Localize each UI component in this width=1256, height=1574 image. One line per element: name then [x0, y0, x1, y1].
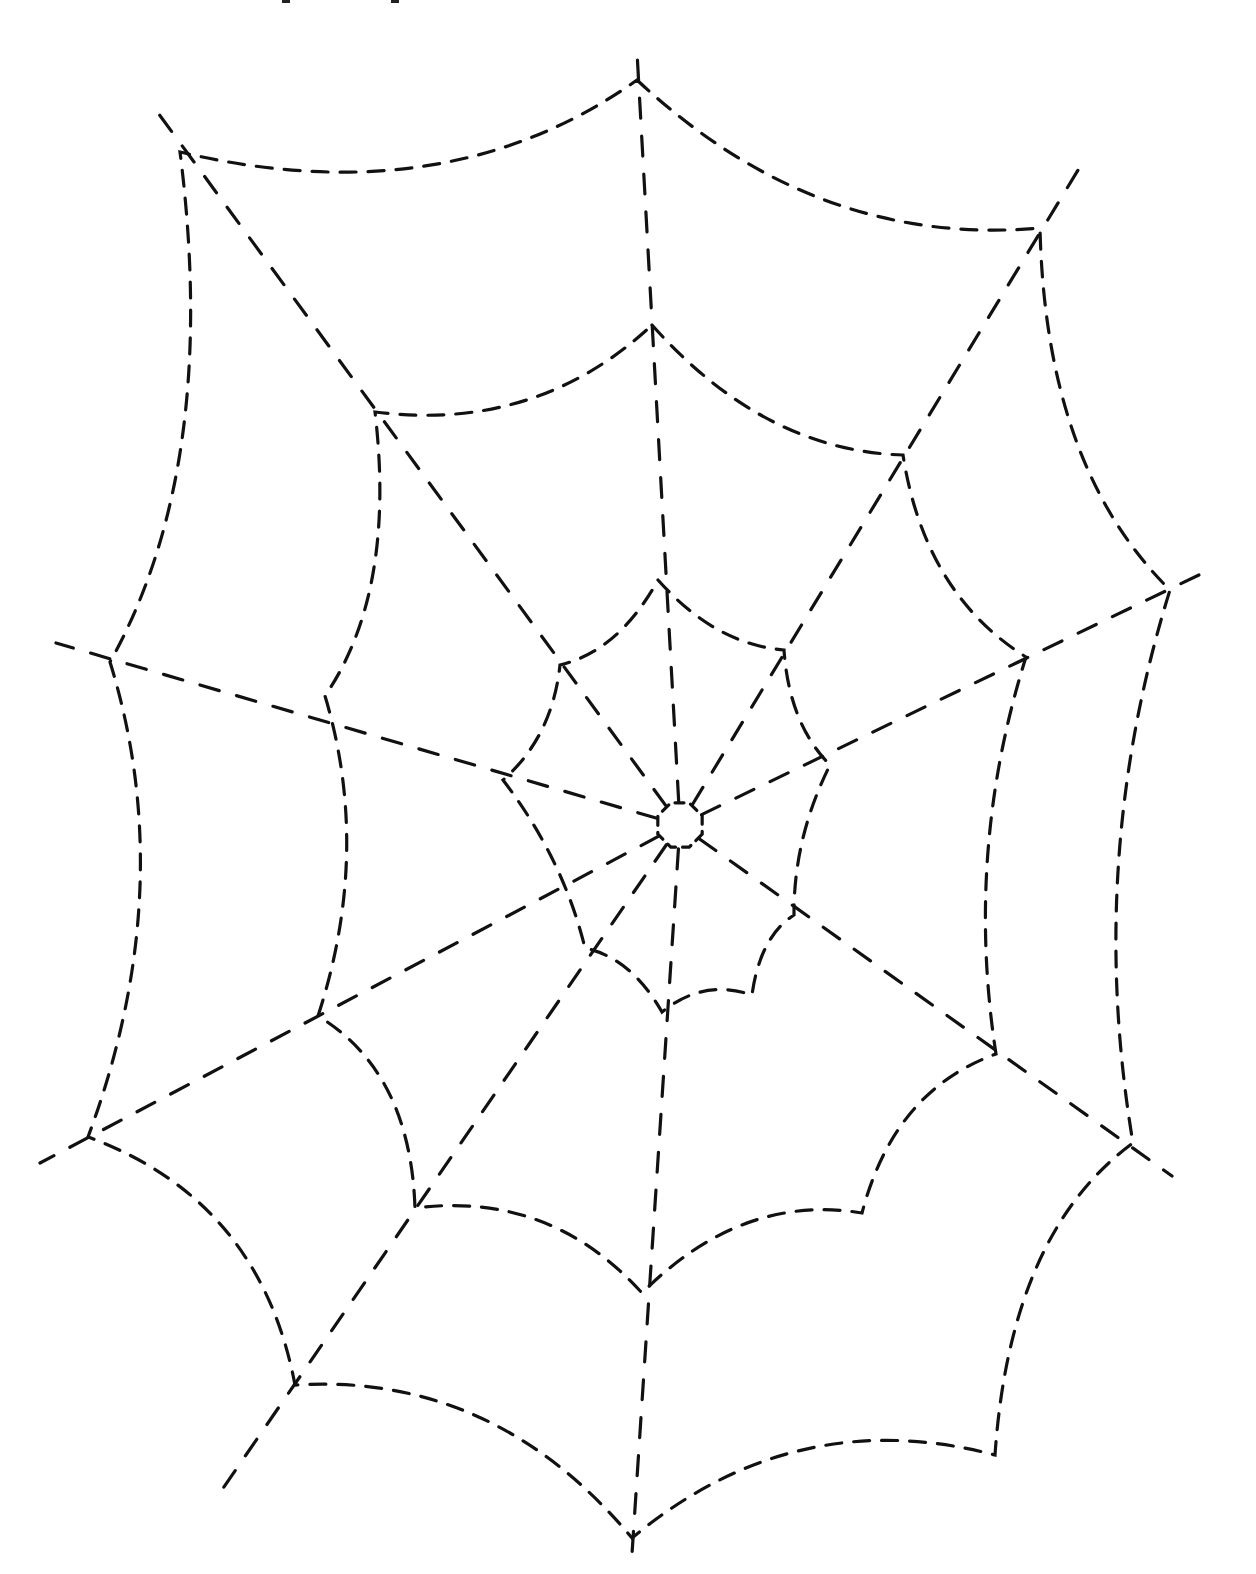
radial-strand [692, 157, 1086, 804]
spider-web-drawing [0, 0, 1256, 1574]
radial-strand [637, 52, 679, 801]
inner-ring [503, 580, 830, 1012]
middle-ring [318, 325, 1026, 1293]
outer-ring [88, 80, 1170, 1538]
radial-strand [632, 849, 678, 1554]
radial-strand [700, 839, 1172, 1176]
web-radial-strands [40, 52, 1203, 1554]
radial-strand [150, 102, 666, 806]
radial-strand [217, 845, 666, 1497]
web-hub [658, 803, 702, 847]
hub-octagon [658, 803, 702, 847]
web-ring-strands [88, 80, 1170, 1538]
radial-strand [702, 573, 1203, 815]
